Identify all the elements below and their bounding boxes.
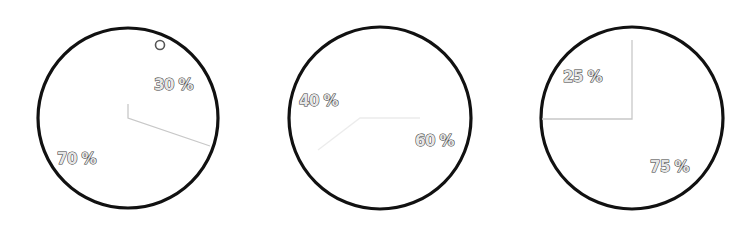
pie-3-label-25: 25 % (563, 68, 603, 86)
pie-1-label-30: 30 % (154, 76, 194, 94)
pie-chart-1: 30 % 70 % (38, 28, 218, 208)
pie-chart-2: 40 % 60 % (289, 27, 471, 209)
pie-1-label-70: 70 % (57, 150, 97, 168)
pie-chart-3: 25 % 75 % (541, 27, 723, 209)
pie-2-label-60: 60 % (415, 132, 455, 150)
pie-3-label-75: 75 % (650, 158, 690, 176)
pie-2-label-40: 40 % (299, 92, 339, 110)
pie-charts-canvas: 30 % 70 % 40 % 60 % 25 % 75 % (0, 0, 754, 232)
